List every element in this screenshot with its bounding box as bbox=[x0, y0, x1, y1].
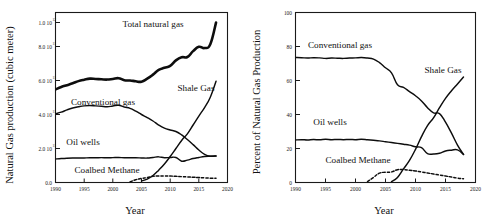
left-x-tick-label: 2010 bbox=[165, 186, 176, 192]
right-x-tick-label: 1990 bbox=[290, 186, 301, 192]
left-chart-svg: Natural Gas production (cubic meter) Yea… bbox=[0, 0, 246, 223]
left-x-tick-label: 1990 bbox=[50, 186, 61, 192]
right-y-ticks bbox=[296, 13, 301, 183]
curve-oil-wells bbox=[56, 156, 217, 161]
right-y-axis-title: Percent of Natural Gas Production bbox=[251, 29, 262, 174]
left-x-tick-label: 2015 bbox=[193, 186, 204, 192]
left-chart-panel: Natural Gas production (cubic meter) Yea… bbox=[0, 0, 246, 223]
left-y-tick-label: 8.0 10 bbox=[39, 44, 53, 50]
left-y-tick-label: 2.0 10 bbox=[39, 146, 53, 152]
left-x-tick-labels: 1990 1995 2000 2005 2010 2015 2020 bbox=[50, 186, 233, 192]
left-y-tick-label: 1.0 10 bbox=[39, 20, 53, 26]
right-chart-panel: Percent of Natural Gas Production Year 0… bbox=[246, 0, 492, 223]
left-y-tick-exponent: 11 bbox=[53, 76, 57, 80]
right-label-coalbed-methane: Coalbed Methane bbox=[325, 155, 390, 165]
right-x-tick-label: 2015 bbox=[440, 186, 451, 192]
left-x-tick-label: 2005 bbox=[136, 186, 147, 192]
right-label-shale-gas: Shale Gas bbox=[425, 65, 462, 75]
two-panel-figure: Natural Gas production (cubic meter) Yea… bbox=[0, 0, 492, 223]
left-y-tick-label: 0.0 bbox=[45, 180, 52, 186]
right-y-tick-label: 60 bbox=[287, 78, 293, 84]
left-x-axis-title: Year bbox=[125, 205, 145, 216]
right-y-tick-labels: 0 20 40 60 80 100 bbox=[284, 10, 292, 186]
left-y-tick-label: 4.0 10 bbox=[39, 112, 53, 118]
right-x-tick-label: 1995 bbox=[320, 186, 331, 192]
right-label-conventional-gas: Conventional gas bbox=[308, 40, 372, 50]
left-y-tick-labels: 0.0 2.0 10 11 4.0 10 11 6.0 10 11 8.0 10… bbox=[39, 18, 57, 185]
right-x-ticks bbox=[296, 179, 476, 183]
left-y-tick-label: 6.0 10 bbox=[39, 78, 53, 84]
left-label-shale-gas: Shale Gas bbox=[178, 83, 215, 93]
left-y-tick-exponent: 11 bbox=[53, 42, 57, 46]
curve-oil-wells bbox=[296, 139, 464, 154]
left-x-tick-label: 1995 bbox=[79, 186, 90, 192]
left-y-tick-exponent: 11 bbox=[53, 144, 57, 148]
curve-shale-gas bbox=[142, 81, 217, 181]
left-x-tick-label: 2000 bbox=[107, 186, 118, 192]
right-x-tick-label: 2005 bbox=[380, 186, 391, 192]
curve-total-natural-gas bbox=[56, 23, 217, 90]
left-x-tick-label: 2020 bbox=[222, 186, 233, 192]
right-y-tick-label: 100 bbox=[284, 10, 292, 16]
right-x-axis-title: Year bbox=[374, 205, 394, 216]
left-label-conventional-gas: Conventional gas bbox=[71, 97, 135, 107]
right-y-tick-label: 80 bbox=[287, 44, 293, 50]
right-chart-svg: Percent of Natural Gas Production Year 0… bbox=[246, 0, 492, 223]
left-label-total-natural-gas: Total natural gas bbox=[122, 19, 184, 29]
right-x-tick-label: 2010 bbox=[410, 186, 421, 192]
left-label-coalbed-methane: Coalbed Methane bbox=[74, 165, 139, 175]
left-y-tick-exponent: 12 bbox=[53, 18, 57, 22]
right-y-tick-label: 0 bbox=[289, 180, 292, 186]
left-y-axis-title: Natural Gas production (cubic meter) bbox=[4, 26, 16, 184]
right-x-tick-label: 2000 bbox=[350, 186, 361, 192]
right-x-tick-labels: 1990 1995 2000 2005 2010 2015 2020 bbox=[290, 186, 481, 192]
right-y-tick-label: 20 bbox=[287, 146, 293, 152]
left-label-oil-wells: Oil wells bbox=[66, 137, 100, 147]
right-y-tick-label: 40 bbox=[287, 112, 293, 118]
right-label-oil-wells: Oil wells bbox=[313, 117, 347, 127]
curve-conventional-gas bbox=[56, 105, 217, 156]
right-x-tick-label: 2020 bbox=[470, 186, 481, 192]
curve-shale-gas bbox=[392, 77, 464, 182]
